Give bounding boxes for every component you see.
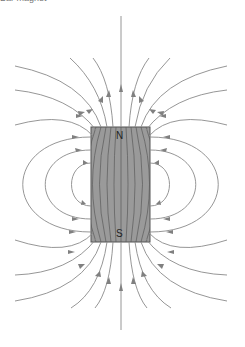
- south-pole-label: S: [116, 228, 123, 239]
- north-pole-label: N: [116, 130, 123, 141]
- bar-magnet-field-diagram: N S: [0, 0, 245, 347]
